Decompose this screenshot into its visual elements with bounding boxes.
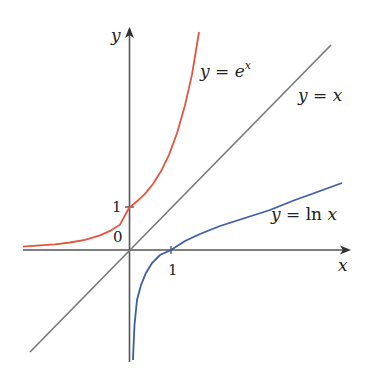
y-tick-label: 1 [112, 198, 122, 216]
exp-curve [23, 32, 199, 247]
origin-label: 0 [113, 228, 123, 246]
x-tick-label: 1 [168, 261, 178, 279]
identity-label: y = x [297, 85, 343, 105]
function-graph: y x 0 1 1 y = ex y = x y = ln x [0, 0, 376, 391]
identity-curve [30, 45, 331, 352]
exp-label: y = ex [199, 59, 252, 81]
ln-label: y = ln x [270, 204, 337, 224]
y-axis-label: y [110, 25, 121, 45]
x-axis-label: x [338, 255, 348, 275]
